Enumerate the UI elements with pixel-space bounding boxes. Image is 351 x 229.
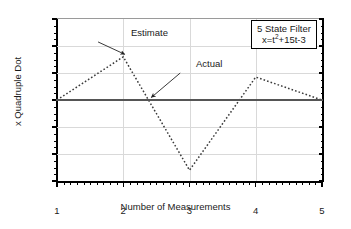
y-tick-minor	[54, 174, 57, 175]
y-tick-minor	[54, 114, 57, 115]
y-tick-minor	[54, 60, 57, 61]
y-tick-minor	[321, 26, 324, 27]
x-tick-minor	[183, 181, 184, 185]
x-tick-minor	[229, 181, 230, 185]
y-axis-title: x Quadruple Dot	[12, 22, 23, 162]
y-tick-minor	[321, 147, 324, 148]
y-tick-minor	[321, 33, 324, 34]
y-tick-major	[319, 45, 324, 46]
x-tick-minor	[77, 181, 78, 185]
x-tick-minor	[70, 181, 71, 185]
gridline-vertical	[123, 19, 124, 181]
y-tick-minor	[321, 53, 324, 54]
y-tick-minor	[54, 26, 57, 27]
x-tick-major	[189, 181, 190, 187]
x-tick-minor	[84, 181, 85, 185]
y-tick-minor	[54, 141, 57, 142]
y-tick-minor	[54, 93, 57, 94]
x-tick-minor	[90, 181, 91, 185]
gridline-vertical	[190, 19, 191, 181]
y-tick-minor	[54, 168, 57, 169]
filter-textbox: 5 State Filter x=t2+15t-3	[251, 20, 317, 49]
y-tick-minor	[321, 39, 324, 40]
y-tick-minor	[54, 80, 57, 81]
textbox-line-2: x=t2+15t-3	[257, 34, 311, 45]
x-tick-minor	[276, 181, 277, 185]
x-tick-minor	[309, 181, 310, 185]
y-tick-minor	[54, 53, 57, 54]
y-tick-major	[319, 18, 324, 19]
x-tick-minor	[223, 181, 224, 185]
x-tick-minor	[196, 181, 197, 185]
x-tick-label: 2	[108, 206, 138, 216]
y-tick-minor	[321, 87, 324, 88]
y-tick-minor	[54, 39, 57, 40]
y-tick-major	[319, 153, 324, 154]
x-tick-minor	[176, 181, 177, 185]
y-tick-minor	[54, 66, 57, 67]
x-tick-major	[56, 181, 57, 187]
x-tick-minor	[97, 181, 98, 185]
y-tick-minor	[54, 134, 57, 135]
textbox-formula-prefix: x=t	[262, 34, 275, 45]
x-tick-minor	[262, 181, 263, 185]
y-tick-minor	[321, 161, 324, 162]
y-tick-major	[52, 126, 57, 127]
y-tick-major	[319, 72, 324, 73]
y-tick-major	[52, 18, 57, 19]
y-tick-minor	[54, 107, 57, 108]
y-tick-minor	[321, 93, 324, 94]
y-tick-minor	[321, 174, 324, 175]
x-tick-minor	[289, 181, 290, 185]
x-tick-minor	[243, 181, 244, 185]
x-tick-major	[123, 181, 124, 187]
x-tick-minor	[302, 181, 303, 185]
y-tick-minor	[321, 80, 324, 81]
y-tick-major	[52, 99, 57, 100]
y-tick-minor	[54, 161, 57, 162]
x-tick-minor	[130, 181, 131, 185]
x-tick-minor	[269, 181, 270, 185]
y-tick-minor	[321, 114, 324, 115]
x-tick-label: 5	[307, 206, 337, 216]
y-tick-minor	[321, 168, 324, 169]
y-tick-minor	[321, 60, 324, 61]
y-tick-minor	[54, 147, 57, 148]
y-tick-minor	[321, 134, 324, 135]
textbox-line-1: 5 State Filter	[257, 23, 311, 34]
x-tick-minor	[236, 181, 237, 185]
x-tick-label: 4	[241, 206, 271, 216]
y-tick-major	[52, 45, 57, 46]
y-tick-minor	[321, 107, 324, 108]
y-tick-major	[52, 72, 57, 73]
x-tick-minor	[150, 181, 151, 185]
x-tick-minor	[315, 181, 316, 185]
x-tick-minor	[163, 181, 164, 185]
x-tick-major	[255, 181, 256, 187]
y-tick-major	[319, 126, 324, 127]
y-tick-minor	[321, 120, 324, 121]
x-tick-major	[321, 181, 322, 187]
x-tick-minor	[64, 181, 65, 185]
x-tick-minor	[143, 181, 144, 185]
y-tick-minor	[321, 66, 324, 67]
annotation-estimate: Estimate	[131, 28, 168, 38]
y-tick-major	[319, 99, 324, 100]
y-tick-major	[52, 153, 57, 154]
x-tick-minor	[249, 181, 250, 185]
y-tick-minor	[54, 120, 57, 121]
y-tick-minor	[321, 141, 324, 142]
x-tick-minor	[137, 181, 138, 185]
x-tick-minor	[117, 181, 118, 185]
x-tick-minor	[110, 181, 111, 185]
y-tick-minor	[54, 33, 57, 34]
chart-figure: x Quadruple Dot Number of Measurements -…	[0, 0, 351, 229]
textbox-formula-suffix: +15t-3	[279, 34, 306, 45]
x-tick-minor	[209, 181, 210, 185]
x-tick-minor	[216, 181, 217, 185]
x-tick-minor	[296, 181, 297, 185]
x-tick-minor	[282, 181, 283, 185]
annotation-actual: Actual	[196, 59, 222, 69]
x-tick-minor	[170, 181, 171, 185]
x-tick-minor	[156, 181, 157, 185]
